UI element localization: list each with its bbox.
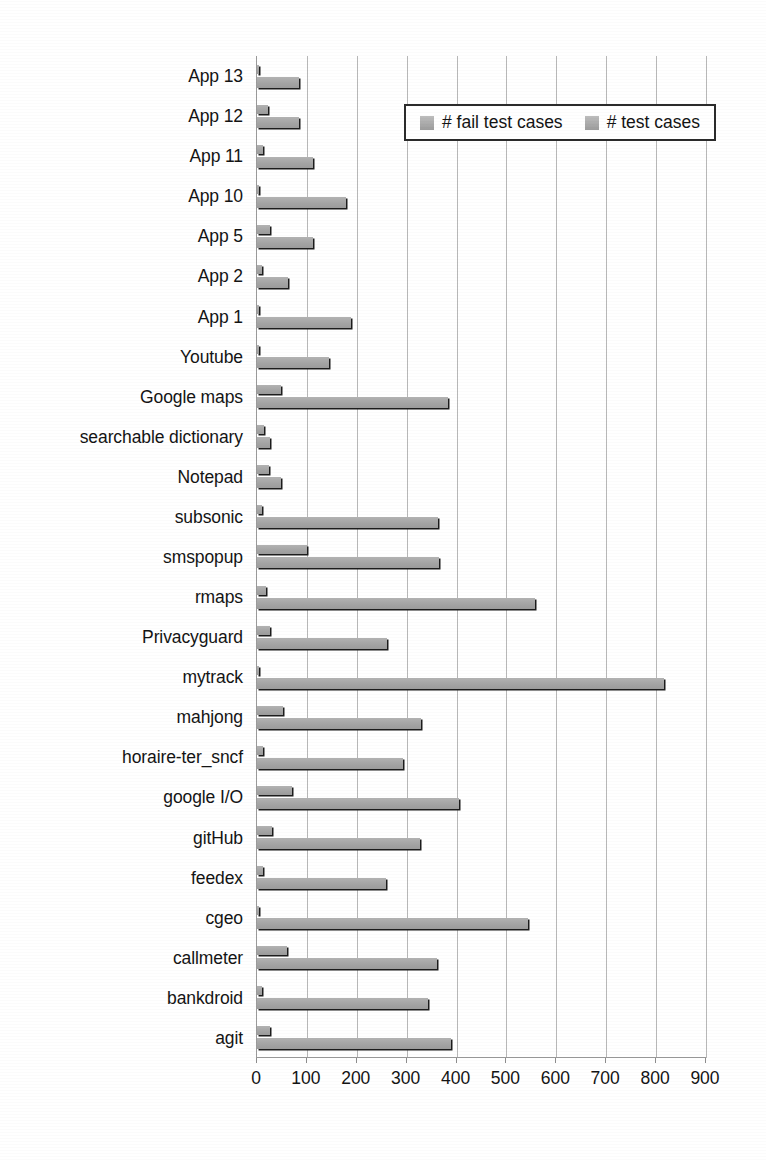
- y-axis-category-label: App 5: [198, 227, 243, 246]
- bar-fail-test-cases[interactable]: [257, 746, 263, 755]
- bar-test-cases[interactable]: [257, 878, 386, 889]
- x-axis-tick: [505, 1058, 506, 1063]
- bar-fail-test-cases[interactable]: [257, 626, 270, 635]
- category-row: App 1: [0, 296, 766, 336]
- category-row: App 2: [0, 256, 766, 296]
- bar-fail-test-cases[interactable]: [257, 986, 262, 995]
- y-axis-category-label: App 13: [188, 67, 243, 86]
- category-row: Google maps: [0, 377, 766, 417]
- bar-fail-test-cases[interactable]: [257, 505, 262, 514]
- bar-fail-test-cases[interactable]: [257, 666, 259, 675]
- bar-fail-test-cases[interactable]: [257, 906, 259, 915]
- bar-fail-test-cases[interactable]: [257, 586, 266, 595]
- bar-test-cases[interactable]: [257, 77, 299, 88]
- bar-test-cases[interactable]: [257, 1038, 451, 1049]
- bar-test-cases[interactable]: [257, 718, 421, 729]
- x-axis-tick: [406, 1058, 407, 1063]
- bar-test-cases[interactable]: [257, 517, 438, 528]
- category-row: feedex: [0, 858, 766, 898]
- bar-fail-test-cases[interactable]: [257, 1026, 270, 1035]
- y-axis-category-label: Notepad: [178, 467, 243, 486]
- bar-fail-test-cases[interactable]: [257, 65, 259, 74]
- bar-fail-test-cases[interactable]: [257, 105, 268, 114]
- category-row: Privacyguard: [0, 617, 766, 657]
- y-axis-category-label: App 1: [198, 307, 243, 326]
- bar-fail-test-cases[interactable]: [257, 946, 287, 955]
- y-axis-category-label: google I/O: [163, 788, 243, 807]
- y-axis-category-label: mytrack: [182, 668, 243, 687]
- bar-fail-test-cases[interactable]: [257, 706, 283, 715]
- bar-test-cases[interactable]: [257, 838, 420, 849]
- y-axis-category-label: callmeter: [173, 948, 243, 967]
- y-axis-category-label: cgeo: [205, 908, 243, 927]
- bar-test-cases[interactable]: [257, 958, 437, 969]
- x-axis-tick: [456, 1058, 457, 1063]
- bar-fail-test-cases[interactable]: [257, 345, 259, 354]
- category-row: bankdroid: [0, 978, 766, 1018]
- x-axis-tick: [356, 1058, 357, 1063]
- y-axis-category-label: agit: [215, 1028, 243, 1047]
- y-axis-category-label: Privacyguard: [142, 628, 243, 647]
- category-row: horaire-ter_sncf: [0, 737, 766, 777]
- category-row: callmeter: [0, 938, 766, 978]
- bar-fail-test-cases[interactable]: [257, 866, 263, 875]
- y-axis-category-label: Youtube: [180, 347, 243, 366]
- bar-test-cases[interactable]: [257, 397, 448, 408]
- category-row: agit: [0, 1018, 766, 1058]
- bar-test-cases[interactable]: [257, 477, 281, 488]
- y-axis-category-label: searchable dictionary: [80, 427, 243, 446]
- bar-fail-test-cases[interactable]: [257, 225, 270, 234]
- bar-test-cases[interactable]: [257, 237, 313, 248]
- category-row: gitHub: [0, 818, 766, 858]
- y-axis-category-label: App 10: [188, 187, 243, 206]
- bar-chart: # fail test cases # test cases 010020030…: [0, 0, 766, 1160]
- bar-test-cases[interactable]: [257, 798, 459, 809]
- x-axis-tick: [605, 1058, 606, 1063]
- bar-fail-test-cases[interactable]: [257, 305, 259, 314]
- bar-test-cases[interactable]: [257, 197, 346, 208]
- bar-fail-test-cases[interactable]: [257, 425, 264, 434]
- bar-fail-test-cases[interactable]: [257, 185, 259, 194]
- category-row: App 10: [0, 176, 766, 216]
- category-row: smspopup: [0, 537, 766, 577]
- bar-fail-test-cases[interactable]: [257, 385, 281, 394]
- y-axis-category-label: gitHub: [193, 828, 243, 847]
- category-row: google I/O: [0, 777, 766, 817]
- category-row: rmaps: [0, 577, 766, 617]
- bar-test-cases[interactable]: [257, 557, 439, 568]
- bar-test-cases[interactable]: [257, 678, 664, 689]
- bar-test-cases[interactable]: [257, 998, 428, 1009]
- category-row: App 11: [0, 136, 766, 176]
- bar-test-cases[interactable]: [257, 638, 387, 649]
- y-axis-category-label: App 2: [198, 267, 243, 286]
- bar-test-cases[interactable]: [257, 157, 313, 168]
- y-axis-category-label: App 11: [189, 147, 243, 166]
- bar-fail-test-cases[interactable]: [257, 545, 307, 554]
- bar-test-cases[interactable]: [257, 598, 535, 609]
- y-axis-category-label: App 12: [188, 107, 243, 126]
- category-row: App 13: [0, 56, 766, 96]
- x-axis-tick: [555, 1058, 556, 1063]
- x-axis-tick-label: 900: [670, 1068, 740, 1088]
- bar-test-cases[interactable]: [257, 437, 270, 448]
- y-axis-category-label: subsonic: [175, 507, 243, 526]
- bar-fail-test-cases[interactable]: [257, 826, 272, 835]
- bar-fail-test-cases[interactable]: [257, 145, 263, 154]
- category-row: Notepad: [0, 457, 766, 497]
- bar-test-cases[interactable]: [257, 117, 299, 128]
- category-row: searchable dictionary: [0, 417, 766, 457]
- bar-fail-test-cases[interactable]: [257, 786, 292, 795]
- bar-test-cases[interactable]: [257, 758, 403, 769]
- bar-fail-test-cases[interactable]: [257, 465, 269, 474]
- x-axis-tick: [705, 1058, 706, 1063]
- x-axis-tick: [655, 1058, 656, 1063]
- y-axis-category-label: feedex: [191, 868, 243, 887]
- category-row: Youtube: [0, 337, 766, 377]
- bar-fail-test-cases[interactable]: [257, 265, 262, 274]
- bar-test-cases[interactable]: [257, 317, 351, 328]
- bar-test-cases[interactable]: [257, 918, 528, 929]
- bar-test-cases[interactable]: [257, 357, 329, 368]
- y-axis-category-label: rmaps: [195, 588, 243, 607]
- bar-test-cases[interactable]: [257, 277, 288, 288]
- category-row: subsonic: [0, 497, 766, 537]
